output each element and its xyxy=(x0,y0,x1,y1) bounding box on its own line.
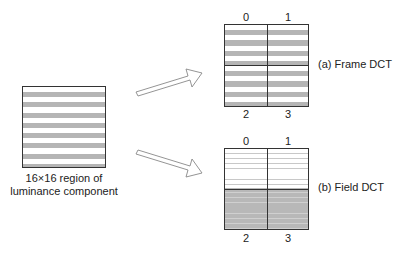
field-block-label-0: 0 xyxy=(236,135,256,147)
source-caption-line1: 16×16 region of xyxy=(4,172,124,185)
frame-block-label-1: 1 xyxy=(278,11,298,23)
frame-block-label-0: 0 xyxy=(236,11,256,23)
source-luminance-block xyxy=(22,86,106,168)
frame-dct-block xyxy=(224,24,309,107)
field-dct-block xyxy=(224,148,309,230)
field-block-label-1: 1 xyxy=(278,135,298,147)
frame-dct-label: (a) Frame DCT xyxy=(318,58,392,70)
frame-horizontal-divider xyxy=(225,65,308,66)
field-block-label-3: 3 xyxy=(278,232,298,244)
frame-block-label-2: 2 xyxy=(236,108,256,120)
arrow-to-field-dct-icon xyxy=(130,140,220,190)
field-horizontal-divider xyxy=(225,189,308,190)
source-caption-line2: luminance component xyxy=(4,185,124,198)
frame-block-label-3: 3 xyxy=(278,108,298,120)
arrow-to-frame-dct-icon xyxy=(130,60,220,110)
field-dct-label: (b) Field DCT xyxy=(318,181,384,193)
field-block-label-2: 2 xyxy=(236,232,256,244)
